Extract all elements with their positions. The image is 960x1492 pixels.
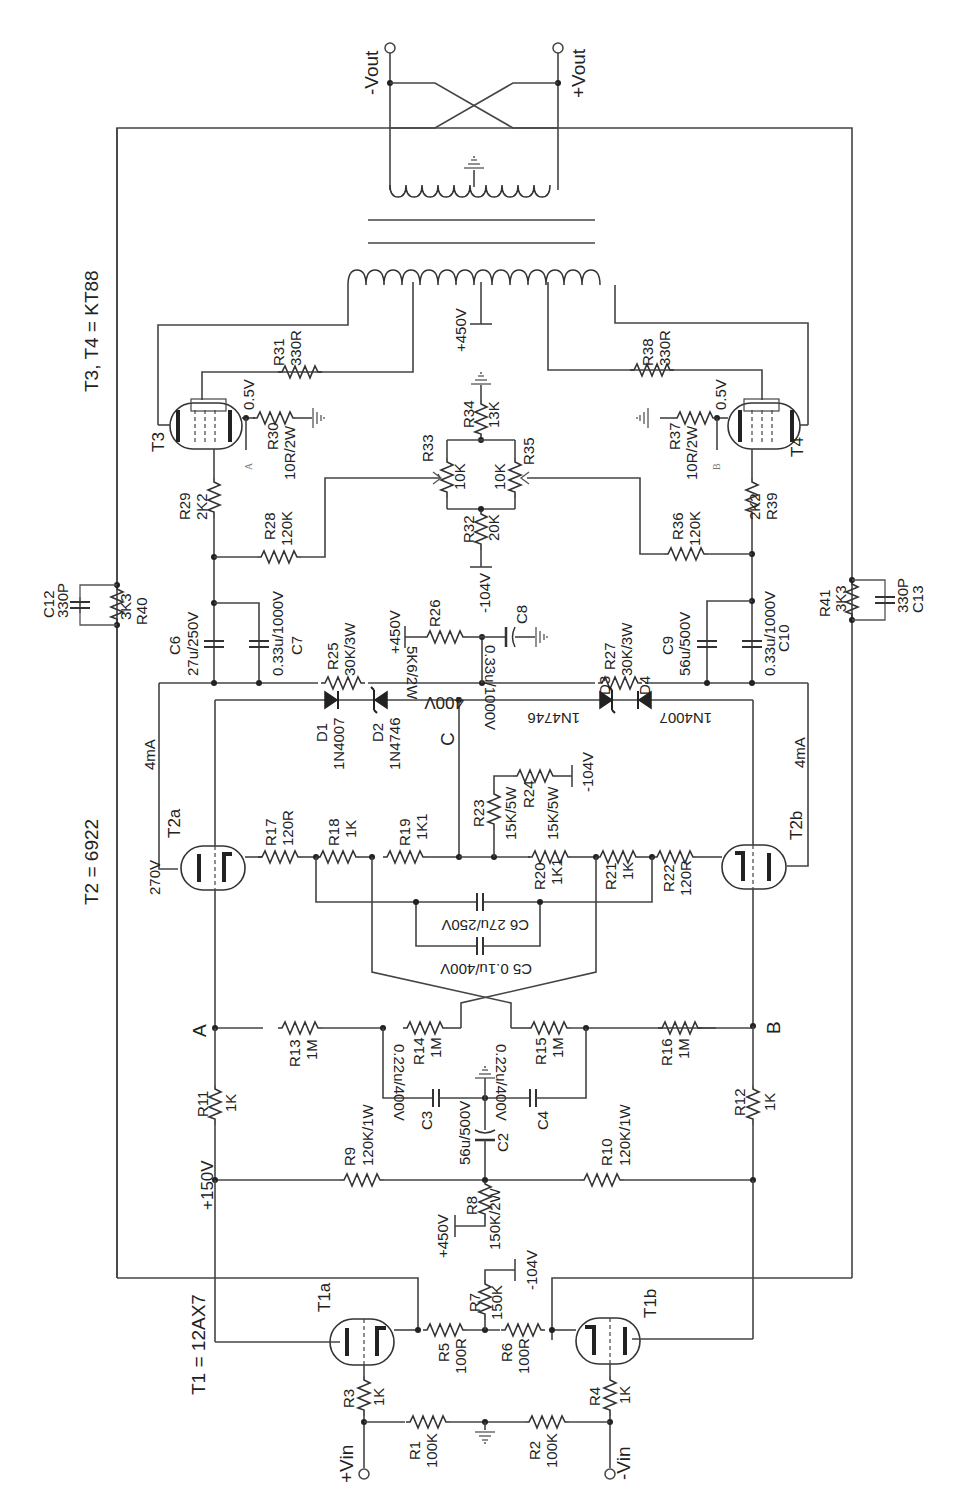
r38-ref: R38 bbox=[639, 338, 656, 366]
r30-value: 10R/2W bbox=[281, 425, 298, 480]
resistor-r14 bbox=[403, 1022, 447, 1034]
resistor-r17 bbox=[258, 851, 302, 863]
tube-t2a bbox=[181, 700, 245, 1028]
capacitor-c9 bbox=[482, 627, 547, 647]
note-t2: T2 = 6922 bbox=[81, 819, 102, 905]
r23-value: 15K/5W bbox=[502, 786, 519, 840]
r15-value: 1M bbox=[549, 1037, 566, 1058]
v270-label: 270V bbox=[146, 860, 163, 895]
node-a-small-label: A bbox=[243, 462, 254, 470]
vout-pos-terminal[interactable] bbox=[553, 43, 563, 53]
r23-ref: R23 bbox=[470, 799, 487, 827]
r30-ref: R30 bbox=[264, 422, 281, 450]
ground-icon bbox=[536, 627, 547, 647]
v05-t4-label: 0.5V bbox=[712, 379, 729, 410]
c6-label: C6 27u/250V bbox=[441, 917, 529, 934]
node-b-label: B bbox=[763, 1021, 784, 1034]
r3-value: 1K bbox=[370, 1388, 387, 1406]
r36-value: 120K bbox=[686, 511, 703, 546]
v450-r26-label: +450V bbox=[386, 610, 403, 654]
resistor-r18 bbox=[316, 851, 360, 863]
r26-ref: R26 bbox=[426, 599, 443, 627]
t4-label: T4 bbox=[788, 437, 807, 457]
r25-ref: R25 bbox=[324, 642, 341, 670]
r24-ref: R24 bbox=[520, 780, 537, 808]
node-a-label: A bbox=[189, 1024, 210, 1037]
r32-ref: R32 bbox=[460, 515, 477, 543]
r40-ref: R40 bbox=[133, 597, 150, 625]
i-t2a-label: 4mA bbox=[141, 739, 158, 770]
r15-ref: R15 bbox=[532, 1037, 549, 1065]
r12-ref: R12 bbox=[731, 1088, 748, 1116]
r22-ref: R22 bbox=[660, 864, 677, 892]
t2b-label: T2b bbox=[787, 811, 806, 840]
r19-value: 1K1 bbox=[413, 813, 430, 840]
vin-pos-label: +Vin bbox=[336, 1445, 357, 1483]
c3-value: 0.22u/400V bbox=[391, 1044, 408, 1121]
resistor-r36 bbox=[527, 478, 752, 560]
vin-pos-terminal[interactable] bbox=[359, 1469, 369, 1479]
tube-t2b bbox=[722, 700, 786, 1026]
r39-ref: R39 bbox=[763, 492, 780, 520]
r19-ref: R19 bbox=[396, 818, 413, 846]
note-t1: T1 = 12AX7 bbox=[188, 1294, 209, 1395]
r16-ref: R16 bbox=[658, 1038, 675, 1066]
r13-value: 1M bbox=[303, 1039, 320, 1060]
vin-neg-label: -Vin bbox=[613, 1447, 634, 1480]
resistor-r9 bbox=[340, 1174, 384, 1186]
vout-neg-terminal[interactable] bbox=[385, 43, 395, 53]
resistor-r13 bbox=[278, 1022, 322, 1034]
node-c-label: C bbox=[437, 732, 458, 746]
r10-value: 120K/1W bbox=[616, 1103, 633, 1166]
vneg104-r32-label: -104V bbox=[476, 573, 493, 613]
ground-icon bbox=[313, 408, 324, 428]
c4-value: 0.22u/400V bbox=[493, 1044, 510, 1121]
r1-ref: R1 bbox=[406, 1441, 423, 1460]
i-t2b-label: 4mA bbox=[791, 737, 808, 768]
r4-ref: R4 bbox=[586, 1387, 603, 1406]
r2-ref: R2 bbox=[526, 1441, 543, 1460]
zener-d2 bbox=[375, 692, 387, 708]
r6-ref: R6 bbox=[498, 1343, 515, 1362]
c11-value: 0.33u/1000V bbox=[761, 591, 778, 676]
r21-value: 1K bbox=[619, 862, 636, 880]
capacitor-c12 bbox=[70, 597, 90, 613]
r13-ref: R13 bbox=[286, 1039, 303, 1067]
tube-t1a bbox=[215, 1319, 421, 1376]
resistor-r24 bbox=[513, 770, 557, 782]
r14-value: 1M bbox=[427, 1037, 444, 1058]
amplifier-schematic: T1 = 12AX7 T2 = 6922 T3, T4 = KT88 +Vin … bbox=[0, 0, 960, 1492]
r27-value: 30K/3W bbox=[618, 622, 635, 676]
r31-ref: R31 bbox=[270, 338, 287, 366]
r33-ref: R33 bbox=[419, 434, 436, 462]
r7-ref: R7 bbox=[466, 1293, 483, 1312]
resistor-r21 bbox=[596, 851, 640, 863]
resistor-r15 bbox=[527, 1022, 571, 1034]
c9-ref: C8 bbox=[513, 605, 530, 624]
v150-label: +150V bbox=[198, 1160, 217, 1210]
c2-value: 56u/500V bbox=[456, 1101, 473, 1165]
t3-label: T3 bbox=[149, 432, 168, 452]
r17-ref: R17 bbox=[262, 818, 279, 846]
ground-icon bbox=[475, 1432, 495, 1443]
resistor-r23 bbox=[488, 790, 500, 830]
r12-value: 1K bbox=[761, 1093, 778, 1111]
c3-ref: C3 bbox=[418, 1111, 435, 1130]
r7-value: 150K bbox=[488, 1285, 505, 1320]
tube-t3 bbox=[158, 399, 242, 465]
r17-value: 120R bbox=[279, 810, 296, 846]
r9-ref: R9 bbox=[341, 1147, 358, 1166]
d1-ref: D1 bbox=[313, 723, 330, 742]
resistor-r12 bbox=[747, 1085, 759, 1125]
note-t34: T3, T4 = KT88 bbox=[81, 270, 102, 392]
r5-value: 100R bbox=[452, 1338, 469, 1374]
r36-ref: R36 bbox=[669, 512, 686, 540]
d2-ref: D2 bbox=[369, 723, 386, 742]
ground-icon bbox=[637, 408, 648, 428]
r33-value: 10K bbox=[451, 463, 468, 490]
c12-value: 330P bbox=[54, 583, 71, 618]
ground-icon bbox=[475, 1067, 495, 1078]
r14-ref: R14 bbox=[410, 1037, 427, 1065]
r26-value: 5K6/2W bbox=[404, 646, 421, 700]
r29-ref: R29 bbox=[176, 492, 193, 520]
